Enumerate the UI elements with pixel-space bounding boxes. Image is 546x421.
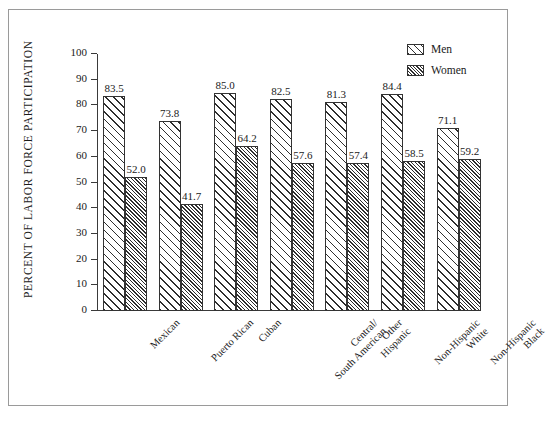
y-axis-tick: 40 [91, 207, 97, 208]
bar-value-label: 83.5 [104, 82, 123, 95]
bar-group: 85.064.2Cuban [214, 54, 258, 311]
y-axis-tick: 100 [91, 53, 97, 54]
plot-area: 0102030405060708090100 83.552.0Mexican73… [97, 54, 479, 311]
bar-value-label: 85.0 [216, 79, 235, 92]
bar-group: 71.159.2Non-HispanicBlack [437, 54, 481, 311]
bar-value-label: 58.5 [404, 147, 423, 160]
y-axis-tick-label: 100 [71, 45, 88, 59]
bar-women: 58.5 [403, 161, 425, 311]
bar-men: 84.4 [381, 94, 403, 311]
legend-swatch-men-icon [407, 44, 424, 55]
bar-value-label: 41.7 [182, 190, 201, 203]
bar-women: 57.4 [347, 163, 369, 311]
legend-label-women: Women [431, 62, 466, 79]
bar-group: 73.841.7Puerto Rican [159, 54, 203, 311]
bar-value-label: 82.5 [271, 85, 290, 98]
y-axis-title-text: PERCENT OF LABOR FORCE PARTICIPATION [22, 38, 34, 298]
bar-group: 83.552.0Mexican [103, 54, 147, 311]
bar-men: 82.5 [270, 99, 292, 311]
bar-men: 81.3 [325, 102, 347, 311]
y-axis-tick: 20 [91, 259, 97, 260]
y-axis-tick-label: 60 [76, 148, 87, 162]
bar-men: 73.8 [159, 121, 181, 311]
bar-women: 64.2 [236, 146, 258, 311]
y-axis-tick: 30 [91, 233, 97, 234]
bar-men: 85.0 [214, 93, 236, 311]
bar-value-label: 57.4 [349, 149, 368, 162]
bar-group: 84.458.5Non-HispanicWhite [381, 54, 425, 311]
y-axis-tick: 80 [91, 104, 97, 105]
bar-group: 82.557.6Central/South American [270, 54, 314, 311]
bar-women: 57.6 [292, 163, 314, 311]
y-axis-line [97, 54, 98, 311]
bar-women: 59.2 [459, 159, 481, 311]
y-axis-tick: 50 [91, 182, 97, 183]
bar-value-label: 59.2 [460, 145, 479, 158]
bar-men: 71.1 [437, 128, 459, 311]
bar-value-label: 57.6 [293, 149, 312, 162]
legend-item-women: Women [407, 62, 466, 79]
y-axis-tick-label: 0 [82, 302, 88, 316]
bar-group: 81.357.4OtherHispanic [325, 54, 369, 311]
legend-label-men: Men [431, 41, 452, 58]
bar-value-label: 84.4 [382, 80, 401, 93]
bar-value-label: 52.0 [126, 163, 145, 176]
legend-swatch-women-icon [407, 65, 424, 76]
y-axis-title: PERCENT OF LABOR FORCE PARTICIPATION [22, 0, 34, 40]
bar-value-label: 81.3 [327, 88, 346, 101]
y-axis-tick-label: 10 [76, 276, 87, 290]
y-axis-tick: 70 [91, 130, 97, 131]
bar-value-label: 73.8 [160, 107, 179, 120]
bar-women: 52.0 [125, 177, 147, 311]
y-axis-tick-label: 40 [76, 199, 87, 213]
y-axis-tick-label: 80 [76, 96, 87, 110]
y-axis-tick: 90 [91, 79, 97, 80]
y-axis-tick-label: 90 [76, 71, 87, 85]
y-axis-tick: 0 [91, 310, 97, 311]
bar-men: 83.5 [103, 96, 125, 311]
legend: Men Women [407, 41, 466, 83]
bar-value-label: 71.1 [438, 114, 457, 127]
y-axis-tick-label: 50 [76, 174, 87, 188]
bar-value-label: 64.2 [238, 132, 257, 145]
y-axis-tick: 60 [91, 156, 97, 157]
y-axis-tick-label: 30 [76, 225, 87, 239]
y-axis-tick: 10 [91, 284, 97, 285]
legend-item-men: Men [407, 41, 466, 58]
y-axis-tick-label: 20 [76, 251, 87, 265]
bar-women: 41.7 [181, 204, 203, 311]
y-axis-tick-label: 70 [76, 122, 87, 136]
